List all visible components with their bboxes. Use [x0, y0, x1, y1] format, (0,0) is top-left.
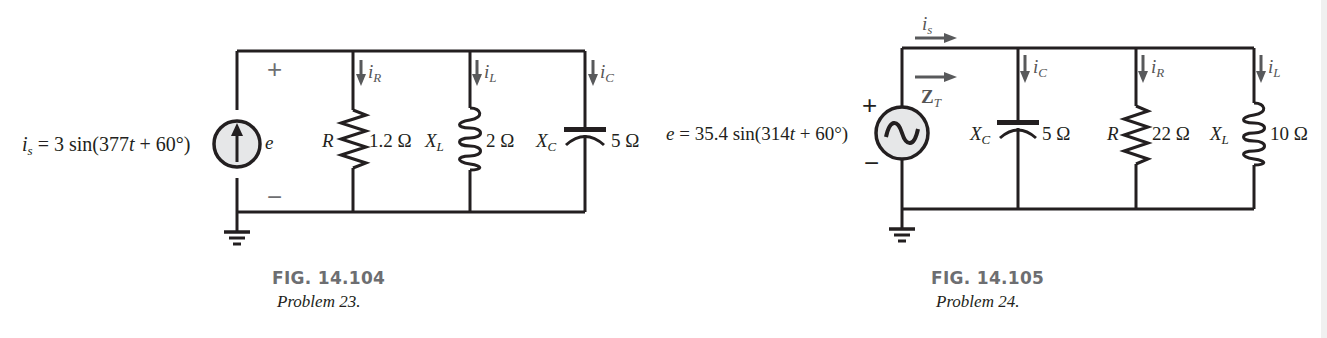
- current-subscript: C: [1038, 65, 1047, 80]
- resistor-name: R: [1107, 124, 1119, 143]
- inductor-name: XL: [1210, 124, 1229, 146]
- current-label-iC: iC: [1033, 57, 1047, 79]
- current-label-iC: iC: [600, 62, 614, 84]
- inductor-value: 10 Ω: [1270, 124, 1308, 143]
- component-subscript: L: [1222, 132, 1229, 147]
- circuit-schematics: [0, 0, 1327, 338]
- current-label-iR: iR: [368, 62, 381, 84]
- current-subscript: L: [1273, 65, 1280, 80]
- total-impedance-label: ZT: [921, 87, 941, 109]
- capacitor-value: 5 Ω: [611, 131, 639, 150]
- current-subscript: s: [927, 22, 932, 37]
- current-arrows-fig105: [915, 33, 1266, 83]
- textbook-figures-page: is = 3 sin(377t + 60°) e + − iR R 1.2 Ω …: [0, 0, 1327, 338]
- figure-number: FIG. 14.104: [272, 268, 385, 288]
- component-symbol: R: [1107, 123, 1119, 144]
- figure-number: FIG. 14.105: [931, 268, 1044, 288]
- expression-head: = 3 sin(377: [33, 133, 129, 155]
- current-label-iL: iL: [1268, 57, 1281, 79]
- current-subscript: R: [373, 70, 381, 85]
- component-symbol: X: [425, 130, 437, 151]
- inductor-coil: [1244, 103, 1265, 165]
- current-label-iL: iL: [484, 62, 497, 84]
- voltage-symbol: e: [265, 132, 273, 153]
- impedance-subscript: T: [934, 95, 941, 110]
- voltage-label-e: e: [265, 133, 273, 152]
- capacitor-flat-plate: [997, 120, 1039, 125]
- impedance-symbol: Z: [921, 86, 934, 107]
- capacitor-name: XC: [536, 131, 556, 153]
- plus-sign: +: [862, 92, 877, 118]
- source-expression: is = 3 sin(377t + 60°): [22, 134, 190, 157]
- component-symbol: X: [536, 130, 548, 151]
- figure-subtitle: Problem 23.: [277, 292, 360, 312]
- inductor-coil: [460, 108, 481, 170]
- component-subscript: L: [437, 139, 444, 154]
- component-symbol: X: [1210, 123, 1222, 144]
- component-symbol: X: [970, 123, 982, 144]
- resistor-zigzag: [341, 110, 366, 168]
- resistor-value: 22 Ω: [1152, 124, 1190, 143]
- inductor-value: 2 Ω: [486, 131, 514, 150]
- component-subscript: C: [982, 132, 991, 147]
- expression-tail: + 60°): [134, 133, 190, 155]
- current-arrows-fig104: [356, 60, 598, 86]
- component-subscript: C: [548, 139, 557, 154]
- resistor-name: R: [322, 131, 334, 150]
- expression-tail: + 60°): [795, 123, 848, 144]
- current-subscript: C: [605, 70, 614, 85]
- resistor-value: 1.2 Ω: [369, 131, 412, 150]
- resistor-zigzag: [1124, 106, 1148, 164]
- capacitor-flat-plate: [564, 127, 606, 132]
- figure-subtitle: Problem 24.: [936, 292, 1019, 312]
- source-expression: e = 35.4 sin(314t + 60°): [666, 124, 848, 143]
- current-label-iR: iR: [1151, 57, 1164, 79]
- minus-sign: −: [267, 184, 282, 210]
- current-subscript: L: [489, 70, 496, 85]
- component-symbol: R: [322, 130, 334, 151]
- capacitor-name: XC: [970, 124, 990, 146]
- minus-sign: −: [864, 150, 879, 176]
- page-edge-shadow: [1321, 0, 1327, 338]
- capacitor-value: 5 Ω: [1042, 124, 1070, 143]
- source-current-label: is: [922, 14, 932, 36]
- inductor-name: XL: [425, 131, 444, 153]
- plus-sign: +: [267, 56, 282, 82]
- current-subscript: R: [1156, 65, 1164, 80]
- expression-head: = 35.4 sin(314: [674, 123, 789, 144]
